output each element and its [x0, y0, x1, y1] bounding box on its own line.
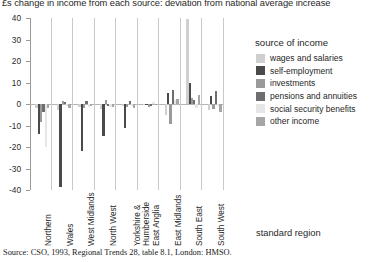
chart-figure: £s change in income from each source: de…: [0, 0, 375, 262]
y-axis-tick-label: 0: [16, 100, 21, 108]
x-axis-category-label-line: South East: [195, 206, 204, 246]
legend-swatch-icon: [256, 54, 265, 63]
legend-swatch-icon: [256, 92, 265, 101]
x-axis-category-label: North West: [109, 205, 118, 246]
bar: [126, 104, 128, 107]
y-axis-tick-label: -40: [9, 186, 21, 194]
legend-item[interactable]: self-employment: [256, 65, 374, 78]
group-separator: [72, 18, 73, 190]
y-axis-tick-label: 30: [12, 36, 21, 44]
x-axis-category-label: Wales: [66, 224, 75, 246]
chart-title: £s change in income from each source: de…: [2, 0, 330, 9]
x-axis-category-label: East Midlands: [174, 195, 183, 246]
bar: [210, 96, 212, 104]
y-axis-tick-label: -10: [9, 122, 21, 130]
y-axis-tick-label: 40: [12, 14, 21, 22]
bar: [102, 104, 104, 136]
group-separator: [94, 18, 95, 190]
legend-swatch-icon: [256, 79, 265, 88]
legend-item-label: other income: [270, 116, 319, 126]
plot-area: 403020100-10-20-30-40: [30, 18, 224, 190]
x-axis-category-label-line: West Midlands: [87, 192, 96, 246]
y-axis-tick: 40: [26, 18, 30, 19]
group-separator: [115, 18, 116, 190]
group-separator: [223, 18, 224, 190]
x-axis-category-labels: NorthernWalesWest MidlandsNorth WestYork…: [30, 190, 224, 248]
bar: [176, 99, 178, 104]
bar: [215, 91, 217, 104]
x-axis-category-label-line: Wales: [66, 224, 75, 246]
group-separator: [137, 18, 138, 190]
bar: [219, 104, 221, 112]
x-axis-category-label-line: East Midlands: [174, 195, 183, 246]
y-axis-tick: 20: [26, 61, 30, 62]
x-axis-category-label: Northern: [44, 214, 53, 246]
x-axis-category-label-line: Yorkshire &: [133, 188, 142, 246]
source-note: Source: CSO, 1993, Regional Trends 28, t…: [3, 248, 232, 257]
x-axis-category-label-line: Northern: [44, 214, 53, 246]
group-separator: [180, 18, 181, 190]
bar: [167, 93, 169, 104]
legend-item-label: wages and salaries: [270, 53, 343, 63]
bar: [155, 104, 157, 105]
legend-swatch-icon: [256, 104, 265, 113]
y-axis-tick: -10: [26, 126, 30, 127]
legend-item[interactable]: other income: [256, 115, 374, 128]
bar: [81, 104, 83, 151]
y-axis-tick-label: 20: [12, 57, 21, 65]
x-axis-title: standard region: [256, 228, 321, 238]
group-separator: [51, 18, 52, 190]
legend-item[interactable]: social security benefits: [256, 102, 374, 115]
x-axis-category-label: West Midlands: [87, 192, 96, 246]
bar: [83, 104, 85, 108]
legend-item-label: social security benefits: [270, 104, 356, 114]
legend-item[interactable]: investments: [256, 77, 374, 90]
group-separator: [201, 18, 202, 190]
bar: [150, 104, 152, 106]
y-axis-tick-label: -20: [9, 143, 21, 151]
bar: [169, 104, 171, 124]
x-axis-category-label-line: South West: [217, 204, 226, 246]
bar: [165, 104, 167, 115]
y-axis-tick-label: -30: [9, 165, 21, 173]
legend-items: wages and salariesself-employmentinvestm…: [256, 52, 374, 128]
x-axis-category-label: South East: [195, 206, 204, 246]
x-axis-category-label-line: North West: [109, 205, 118, 246]
x-axis-category-label: Yorkshire &Humberside: [133, 188, 151, 246]
bar: [90, 104, 92, 106]
x-axis-category-label: South West: [217, 204, 226, 246]
bar: [208, 104, 210, 110]
legend-swatch-icon: [256, 66, 265, 75]
bar: [212, 104, 214, 109]
x-axis-category-label: East Anglia: [152, 205, 161, 246]
legend-swatch-icon: [256, 117, 265, 126]
x-axis-category-label-line: East Anglia: [152, 205, 161, 246]
legend-title: source of income: [255, 36, 374, 49]
y-axis-tick: 10: [26, 83, 30, 84]
bar: [198, 95, 200, 104]
y-axis-tick: -20: [26, 147, 30, 148]
legend-item-label: investments: [270, 78, 315, 88]
bar: [112, 104, 114, 107]
bar: [68, 104, 70, 108]
legend-item-label: self-employment: [270, 66, 332, 76]
bar: [59, 104, 61, 187]
bar: [47, 104, 49, 108]
legend-item[interactable]: wages and salaries: [256, 52, 374, 65]
bar: [195, 104, 197, 108]
y-axis-tick-label: 10: [12, 79, 21, 87]
bar: [124, 104, 126, 128]
legend-item-label: pensions and annuities: [270, 91, 357, 101]
group-separator: [158, 18, 159, 190]
bar: [133, 104, 135, 108]
y-axis-tick: 30: [26, 40, 30, 41]
bar: [45, 104, 47, 147]
legend-item[interactable]: pensions and annuities: [256, 90, 374, 103]
y-axis-tick: -30: [26, 169, 30, 170]
x-axis-category-label-line: Humberside: [142, 188, 151, 246]
legend: source of income wages and salariesself-…: [256, 36, 374, 128]
